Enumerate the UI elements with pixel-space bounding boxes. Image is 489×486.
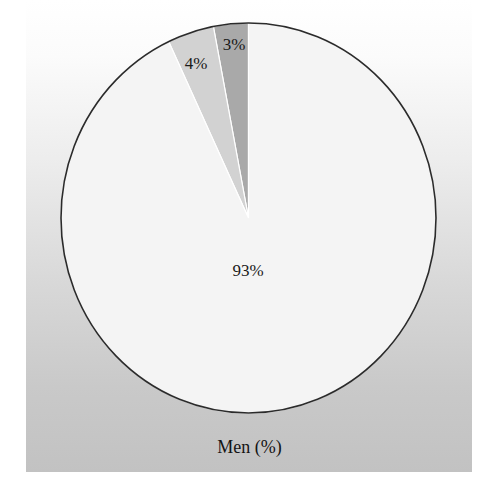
slice-label-main: 93%: [232, 261, 263, 280]
pie-chart: 93% 4% 3%: [0, 0, 489, 486]
pie-slices: [61, 23, 436, 413]
pie-slice: [61, 23, 436, 413]
slice-label-third: 3%: [223, 35, 246, 54]
chart-title: Men (%): [0, 437, 489, 458]
slice-label-second: 4%: [185, 54, 208, 73]
